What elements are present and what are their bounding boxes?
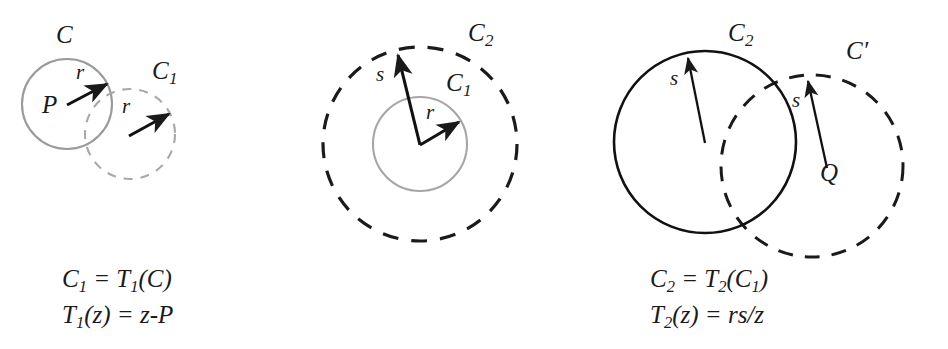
panel-2-graphics (300, 0, 600, 260)
label-r-on-C1: r (122, 96, 130, 117)
label-r-on-C: r (76, 62, 84, 83)
panel-1-graphics (0, 0, 300, 260)
label-Q: Q (820, 160, 838, 185)
label-r: r (426, 102, 434, 123)
subscript: 2 (485, 31, 494, 50)
caption-line-1: C1 = T1(C) (62, 262, 173, 298)
label-C1: C1 (152, 58, 178, 87)
figure-root: C C1 P r r C1 = T1(C) T1(z) = z-P (0, 0, 948, 349)
label-P: P (42, 92, 57, 117)
label-C2: C2 (468, 20, 494, 49)
caption-panel-1: C1 = T1(C) T1(z) = z-P (62, 262, 173, 333)
label-C-prime: C′ (846, 38, 868, 63)
radius-arrow-r-on-C (67, 84, 107, 105)
subscript: 1 (463, 81, 472, 100)
radius-arrow-s-from-Q (808, 81, 827, 168)
panel-3-graphics (600, 0, 948, 260)
radius-arrow-r-to-C1 (420, 122, 459, 145)
label-s-from-Q: s (792, 90, 800, 111)
label-C1: C1 (446, 70, 472, 99)
label-C2: C2 (728, 20, 754, 49)
caption-line-2: T1(z) = z-P (62, 298, 173, 334)
subscript: 1 (169, 69, 178, 88)
panel-translation: C C1 P r r C1 = T1(C) T1(z) = z-P (0, 0, 300, 349)
radius-arrow-s-on-C2 (688, 58, 705, 143)
panel-translation-back: C2 C′ s s Q C′ = T3(C2) T3(z) = z+Q (600, 0, 948, 349)
panel-inversion: C2 C1 s r C2 = T2(C1) T2(z) = rs/z (300, 0, 600, 349)
radius-arrow-r-on-C1 (129, 114, 169, 136)
label-s-on-C2: s (670, 68, 678, 89)
label-s: s (376, 64, 384, 85)
subscript: 2 (745, 31, 754, 50)
label-C: C (56, 22, 73, 47)
